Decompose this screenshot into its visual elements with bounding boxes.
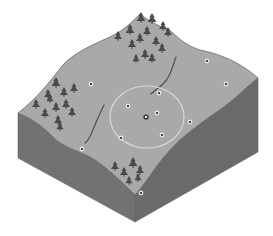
terrain-block (0, 0, 273, 236)
sampling-point (155, 111, 160, 116)
terrain-diagram (0, 0, 273, 236)
sampling-point (157, 91, 162, 96)
sampling-point (160, 133, 165, 138)
sampling-point (205, 59, 210, 64)
center-point (143, 114, 148, 119)
sampling-point (139, 191, 144, 196)
sampling-point (126, 104, 131, 109)
sampling-point (80, 147, 85, 152)
sampling-point (89, 82, 94, 87)
sampling-point (224, 82, 229, 87)
sampling-point (188, 120, 193, 125)
sampling-point (119, 136, 124, 141)
